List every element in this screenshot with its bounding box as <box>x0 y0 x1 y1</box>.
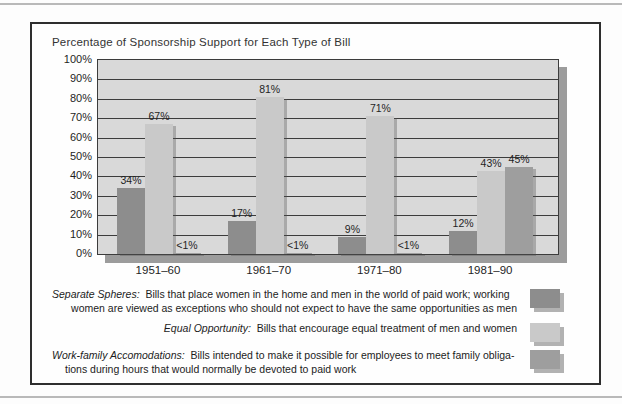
bar-equal-opportunity <box>477 171 505 254</box>
legend-entry-separate-spheres: Separate Spheres: Bills that place women… <box>52 288 580 315</box>
legend-line1: Bills intended to make it possible for e… <box>191 349 515 361</box>
legend-term: Equal Opportunity: <box>164 322 251 334</box>
y-tick-label: 30% <box>32 189 92 203</box>
y-tick-label: 70% <box>32 111 92 125</box>
page-canvas: Percentage of Sponsorship Support for Ea… <box>0 0 622 404</box>
bar-equal-opportunity <box>366 116 394 254</box>
legend-swatch-work-family-accomodations <box>530 350 560 369</box>
legend-entry-equal-opportunity: Equal Opportunity: Bills that encourage … <box>52 322 580 342</box>
top-rule <box>0 3 622 5</box>
y-tick-label: 60% <box>32 131 92 145</box>
plot-area: 34%17%9%12%67%81%71%43%<1%<1%<1%45% <box>97 59 559 255</box>
bar-value-label: <1% <box>152 239 222 251</box>
figure-box: Percentage of Sponsorship Support for Ea… <box>30 22 601 385</box>
legend-line2: women are viewed as exceptions who shoul… <box>52 302 517 316</box>
legend-line1: Bills that encourage equal treatment of … <box>257 322 517 334</box>
legend-line1: Bills that place women in the home and m… <box>145 288 509 300</box>
bar-value-label: 71% <box>345 102 415 114</box>
bar-value-label: 67% <box>124 110 194 122</box>
bar-value-label: <1% <box>373 239 443 251</box>
bar-work-family-accomodations <box>284 253 312 254</box>
bar-equal-opportunity <box>145 124 173 254</box>
y-tick-label: 80% <box>32 92 92 106</box>
bar-separate-spheres <box>449 231 477 254</box>
legend-text: Equal Opportunity: Bills that encourage … <box>52 322 517 336</box>
legend: Separate Spheres: Bills that place women… <box>52 288 580 383</box>
gridline <box>98 79 558 80</box>
bar-work-family-accomodations <box>505 167 533 254</box>
legend-text: Work-family Accomodations: Bills intende… <box>52 349 517 376</box>
bar-work-family-accomodations <box>173 253 201 254</box>
bar-equal-opportunity <box>256 97 284 254</box>
legend-line2: tions during hours that would normally b… <box>52 363 517 377</box>
x-tick-label: 1971–80 <box>329 264 429 276</box>
legend-swatch-separate-spheres <box>530 289 560 308</box>
legend-text: Separate Spheres: Bills that place women… <box>52 288 517 315</box>
y-tick-label: 0% <box>32 247 92 261</box>
x-tick-label: 1961–70 <box>219 264 319 276</box>
bar-value-label: 81% <box>235 83 305 95</box>
y-tick-label: 90% <box>32 72 92 86</box>
bar-value-label: <1% <box>263 239 333 251</box>
bar-work-family-accomodations <box>394 253 422 254</box>
legend-swatch-equal-opportunity <box>530 323 560 342</box>
x-tick-label: 1981–90 <box>440 264 540 276</box>
y-tick-label: 20% <box>32 208 92 222</box>
y-tick-label: 50% <box>32 150 92 164</box>
y-tick-label: 100% <box>32 53 92 67</box>
bar-separate-spheres <box>117 188 145 254</box>
bar-separate-spheres <box>228 221 256 254</box>
x-tick-label: 1951–60 <box>108 264 208 276</box>
gridline <box>98 99 558 100</box>
bar-separate-spheres <box>338 237 366 254</box>
chart-title: Percentage of Sponsorship Support for Ea… <box>52 36 350 48</box>
y-tick-label: 40% <box>32 169 92 183</box>
legend-term: Separate Spheres: <box>52 288 140 300</box>
legend-entry-work-family-accomodations: Work-family Accomodations: Bills intende… <box>52 349 580 376</box>
bottom-rule <box>0 396 622 398</box>
bar-value-label: 45% <box>484 153 554 165</box>
y-tick-label: 10% <box>32 228 92 242</box>
legend-term: Work-family Accomodations: <box>52 349 185 361</box>
